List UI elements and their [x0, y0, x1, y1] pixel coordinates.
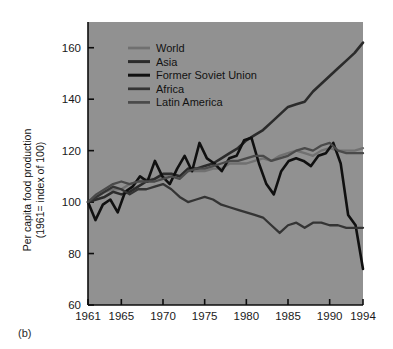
y-tick-label: 160 — [62, 42, 81, 54]
y-axis-title-line2: (1961= index of 100) — [34, 142, 46, 239]
x-tick-label: 1985 — [275, 310, 301, 322]
x-tick-label: 1980 — [234, 310, 260, 322]
x-tick-label: 1965 — [109, 310, 135, 322]
per-capita-food-production-chart: 6080100120140160 19611965197019751980198… — [0, 0, 393, 349]
y-tick-label: 100 — [62, 196, 81, 208]
legend-label-latin-america: Latin America — [156, 96, 224, 108]
y-tick-label: 140 — [62, 93, 81, 105]
y-tick-label: 120 — [62, 145, 81, 157]
figure-container: 6080100120140160 19611965197019751980198… — [0, 0, 393, 349]
y-axis-title-line1: Per capita food production — [21, 129, 33, 252]
x-tick-label: 1990 — [317, 310, 343, 322]
x-tick-label: 1970 — [150, 310, 176, 322]
y-tick-label: 80 — [68, 248, 81, 260]
legend-label-asia: Asia — [156, 56, 178, 68]
x-tick-label: 1975 — [192, 310, 218, 322]
x-tick-label: 1961 — [75, 310, 101, 322]
legend-label-former-soviet-union: Former Soviet Union — [156, 69, 257, 81]
legend-label-africa: Africa — [156, 83, 185, 95]
y-axis-title: Per capita food production (1961= index … — [21, 129, 46, 252]
legend-label-world: World — [156, 42, 185, 54]
x-tick-label: 1994 — [350, 310, 376, 322]
panel-label: (b) — [18, 327, 31, 339]
